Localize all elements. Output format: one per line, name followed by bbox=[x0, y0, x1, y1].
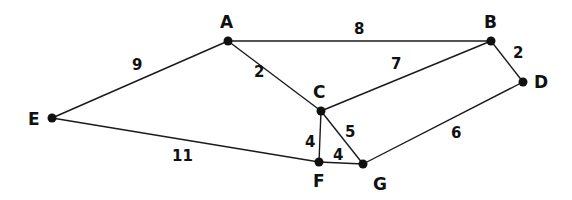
edge-weight-c-f: 4 bbox=[305, 133, 315, 151]
node-label-a: A bbox=[220, 12, 234, 32]
edge-c-f bbox=[319, 111, 321, 162]
edge-a-c bbox=[228, 41, 321, 111]
edge-weight-b-d: 2 bbox=[513, 44, 523, 62]
node-label-e: E bbox=[28, 109, 40, 129]
edge-weight-c-g: 5 bbox=[345, 123, 355, 141]
node-e bbox=[48, 114, 57, 123]
node-b bbox=[487, 37, 496, 46]
node-d bbox=[519, 78, 528, 87]
labels: 82972451146ABCDEFG bbox=[28, 12, 548, 194]
node-a bbox=[224, 37, 233, 46]
edge-a-e bbox=[52, 41, 228, 118]
edge-weight-a-e: 9 bbox=[132, 56, 142, 74]
node-label-c: C bbox=[313, 82, 325, 102]
edges bbox=[52, 41, 523, 164]
edge-weight-b-c: 7 bbox=[391, 55, 401, 73]
edge-d-g bbox=[363, 82, 523, 164]
node-g bbox=[359, 160, 368, 169]
edge-b-c bbox=[321, 41, 491, 111]
node-label-d: D bbox=[534, 72, 548, 92]
node-label-f: F bbox=[313, 171, 325, 191]
node-label-g: G bbox=[373, 174, 387, 194]
weighted-graph-diagram: 82972451146ABCDEFG bbox=[0, 0, 572, 200]
node-c bbox=[317, 107, 326, 116]
edge-weight-e-f: 11 bbox=[172, 147, 193, 165]
edge-weight-f-g: 4 bbox=[333, 146, 343, 164]
node-label-b: B bbox=[484, 12, 497, 32]
edge-weight-d-g: 6 bbox=[451, 124, 461, 142]
edge-weight-a-c: 2 bbox=[254, 63, 264, 81]
node-f bbox=[315, 158, 324, 167]
edge-weight-a-b: 8 bbox=[354, 20, 364, 38]
